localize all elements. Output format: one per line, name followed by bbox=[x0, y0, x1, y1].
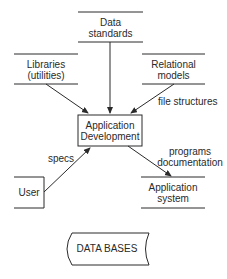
libraries-label: Libraries (utilities) bbox=[14, 59, 78, 81]
specs-label: specs bbox=[48, 153, 74, 164]
user-label: User bbox=[14, 187, 44, 198]
data-bases-label: DATA BASES bbox=[67, 243, 147, 254]
arrow-libraries-to-app-dev bbox=[46, 84, 88, 113]
relational-models-label: Relational models bbox=[142, 59, 205, 81]
application-system-label: Application system bbox=[141, 182, 205, 204]
file-structures-label: file structures bbox=[158, 96, 217, 107]
application-development-label: Application Development bbox=[78, 120, 142, 142]
outputs-label: programs documentation bbox=[155, 146, 225, 168]
data-standards-label: Data standards bbox=[78, 17, 143, 39]
